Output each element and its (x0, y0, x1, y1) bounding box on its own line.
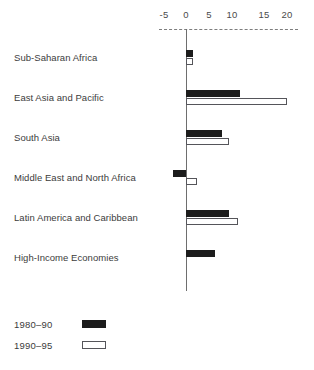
bar-1990-95 (186, 178, 197, 185)
chart-row: East Asia and Pacific (0, 78, 314, 118)
x-tick-label: 15 (252, 9, 276, 21)
bar-1980-90 (186, 90, 240, 97)
x-axis-dashed-line (159, 29, 298, 30)
bar-group (0, 78, 314, 118)
bar-group (0, 38, 314, 78)
bar-group (0, 118, 314, 158)
chart-row: Sub-Saharan Africa (0, 38, 314, 78)
chart-legend: 1980–90 1990–95 (14, 315, 194, 357)
x-tick-label: 0 (174, 9, 198, 21)
bar-1990-95 (186, 58, 193, 65)
chart-rows: Sub-Saharan AfricaEast Asia and PacificS… (0, 38, 314, 278)
legend-swatch-1980-90 (82, 320, 106, 328)
chart-row: South Asia (0, 118, 314, 158)
chart-row: High-Income Economies (0, 238, 314, 278)
x-axis-tick-labels: -5 0 5 10 15 20 (0, 9, 314, 23)
bar-1990-95 (186, 218, 238, 225)
legend-item: 1990–95 (14, 336, 194, 357)
chart-row: Middle East and North Africa (0, 158, 314, 198)
bar-group (0, 158, 314, 198)
bar-1990-95 (186, 98, 287, 105)
bar-1980-90 (186, 50, 193, 57)
x-tick-label: 10 (220, 9, 244, 21)
x-tick-label: 5 (197, 9, 221, 21)
bar-1980-90 (186, 210, 229, 217)
legend-label: 1980–90 (14, 318, 52, 331)
legend-item: 1980–90 (14, 315, 194, 336)
x-tick-label: 20 (275, 9, 299, 21)
bar-group (0, 238, 314, 278)
bar-chart: -5 0 5 10 15 20 Sub-Saharan AfricaEast A… (0, 0, 314, 370)
bar-1990-95 (186, 138, 229, 145)
bar-group (0, 198, 314, 238)
bar-1980-90 (186, 250, 215, 257)
legend-swatch-1990-95 (82, 341, 106, 349)
chart-row: Latin America and Caribbean (0, 198, 314, 238)
bar-1980-90 (186, 130, 222, 137)
x-tick-label: -5 (152, 9, 176, 21)
legend-label: 1990–95 (14, 339, 52, 352)
bar-1980-90 (173, 170, 187, 177)
